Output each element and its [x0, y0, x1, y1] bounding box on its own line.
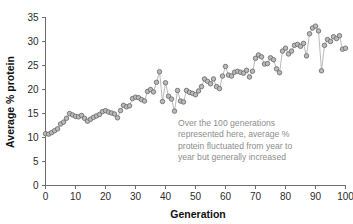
data-point [142, 99, 147, 104]
data-point [289, 49, 294, 54]
x-tick-label: 0 [43, 191, 49, 202]
data-point [154, 80, 159, 85]
annotation-line: protein fluctuated from year to [178, 141, 292, 151]
data-point [55, 127, 60, 132]
x-axis-ticks: 0102030405060708090100 [43, 186, 353, 202]
y-tick-label: 35 [27, 12, 39, 23]
data-point [229, 74, 234, 79]
data-point [337, 33, 342, 38]
data-point [199, 84, 204, 89]
data-point [163, 81, 168, 86]
x-tick-label: 90 [310, 191, 322, 202]
data-point [172, 109, 177, 114]
x-tick-label: 40 [160, 191, 172, 202]
annotation-line: year but generally increased [178, 152, 286, 162]
data-point [169, 97, 174, 102]
data-point [220, 74, 225, 79]
data-point [250, 69, 255, 74]
y-axis-ticks: 05101520253035 [27, 12, 45, 191]
trend-callout: Over the 100 generationsrepresented here… [178, 118, 292, 162]
data-point [193, 93, 198, 98]
data-point [223, 64, 228, 69]
data-point [316, 29, 321, 34]
y-tick-label: 25 [27, 60, 39, 71]
data-point [259, 55, 264, 60]
data-point [151, 90, 156, 95]
data-point [244, 68, 249, 73]
x-tick-label: 20 [100, 191, 112, 202]
data-point [313, 24, 318, 29]
chart-container: 05101520253035 0102030405060708090100 Ge… [0, 0, 353, 224]
data-point [160, 99, 165, 104]
y-tick-label: 20 [27, 84, 39, 95]
data-point [343, 46, 348, 51]
y-tick-label: 10 [27, 132, 39, 143]
data-point [319, 69, 324, 74]
y-tick-label: 15 [27, 108, 39, 119]
x-axis: 0102030405060708090100 [43, 186, 353, 202]
annotation-line: Over the 100 generations [178, 118, 275, 128]
data-point [277, 70, 282, 75]
data-point [61, 120, 66, 125]
protein-generation-line-chart: 05101520253035 0102030405060708090100 Ge… [0, 0, 353, 224]
data-point [328, 39, 333, 44]
x-tick-label: 30 [130, 191, 142, 202]
data-point [307, 32, 312, 37]
y-tick-label: 5 [33, 156, 39, 167]
x-tick-label: 70 [250, 191, 262, 202]
data-point [127, 104, 132, 109]
data-point [283, 46, 288, 51]
data-point [196, 89, 201, 94]
data-point [118, 108, 123, 113]
data-point [181, 100, 186, 105]
y-tick-label: 30 [27, 36, 39, 47]
y-axis: 05101520253035 [27, 12, 45, 191]
x-tick-label: 80 [280, 191, 292, 202]
data-point [112, 112, 117, 117]
x-tick-label: 60 [220, 191, 232, 202]
x-tick-label: 100 [337, 191, 353, 202]
data-point [208, 81, 213, 86]
data-point [211, 77, 216, 82]
y-tick-label: 0 [33, 180, 39, 191]
data-point [271, 57, 276, 62]
annotation-line: represented here, average % [178, 129, 290, 139]
data-point [274, 67, 279, 72]
y-axis-title: Average % protein [4, 56, 16, 148]
data-point [265, 61, 270, 66]
data-point [175, 88, 180, 93]
data-point [322, 43, 327, 48]
data-point [301, 41, 306, 46]
data-point [247, 75, 252, 80]
x-axis-title: Generation [170, 208, 225, 220]
x-tick-label: 50 [190, 191, 202, 202]
data-point [217, 86, 222, 91]
data-point [304, 54, 309, 59]
data-point [157, 69, 162, 74]
data-point [64, 116, 69, 121]
data-point [115, 116, 120, 121]
x-tick-label: 10 [70, 191, 82, 202]
